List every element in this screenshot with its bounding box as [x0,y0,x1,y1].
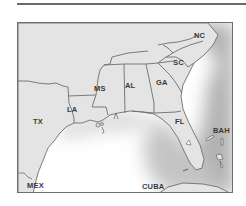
label-fl: FL [175,117,185,126]
label-cuba: CUBA [142,182,164,191]
label-al: AL [125,81,135,90]
map-frame: NC SC GA AL MS LA TX FL BAH MEX CUBA [17,22,233,193]
southeast-us-map [18,23,233,193]
label-tx: TX [33,117,43,126]
label-ga: GA [156,78,168,87]
label-mex: MEX [27,181,44,190]
label-bah: BAH [213,126,230,135]
label-la: LA [67,105,77,114]
label-nc: NC [194,31,205,40]
top-rule [17,3,246,5]
label-ms: MS [94,84,106,93]
label-sc: SC [173,58,184,67]
